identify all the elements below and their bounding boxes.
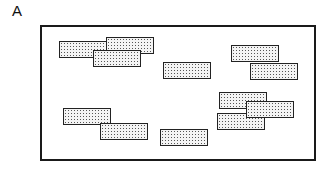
dotted-block	[163, 62, 211, 79]
dotted-block	[100, 123, 148, 140]
dotted-block	[160, 129, 208, 146]
panel-label: A	[12, 2, 22, 19]
dotted-block	[93, 50, 141, 67]
dotted-block	[250, 63, 298, 80]
dotted-block	[231, 45, 279, 62]
dotted-block	[246, 101, 294, 118]
